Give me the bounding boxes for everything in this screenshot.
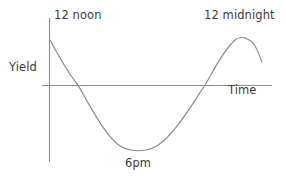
annotation-12-noon: 12 noon: [54, 10, 102, 22]
x-axis-label: Time: [228, 85, 257, 97]
y-axis-label: Yield: [9, 62, 37, 74]
chart-figure: 12 noon 12 midnight Yield Time 6pm: [0, 0, 286, 182]
annotation-6pm: 6pm: [125, 158, 151, 170]
annotation-12-midnight: 12 midnight: [204, 10, 275, 22]
